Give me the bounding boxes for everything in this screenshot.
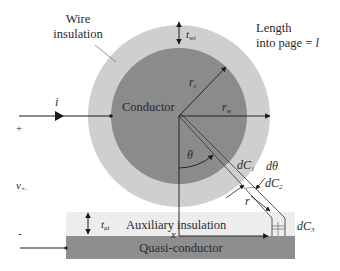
conductor-label: Conductor xyxy=(122,100,176,114)
tube-boundary-dc1-dc2 xyxy=(246,187,258,188)
wire-insulation-label-2: insulation xyxy=(53,27,103,41)
d-theta-arrow xyxy=(256,178,265,189)
minus-terminal-label: - xyxy=(18,227,22,239)
x-label: x xyxy=(170,228,176,240)
r-arrow-end xyxy=(251,196,270,211)
lead-junction-dot xyxy=(109,114,113,118)
bottom-junction-dot xyxy=(64,246,67,249)
length-label: Length xyxy=(256,21,292,35)
d-theta-label: dθ xyxy=(266,159,278,173)
wire-capacitance-diagram: Wire insulation Length into page = l twi… xyxy=(0,0,340,271)
quasi-conductor-label: Quasi-conductor xyxy=(139,241,223,255)
wire-insulation-pointer xyxy=(95,45,116,62)
length-label-2: into page = l xyxy=(256,36,319,50)
theta-label: θ xyxy=(187,148,193,162)
plus-terminal-label: + xyxy=(16,122,22,134)
current-arrow-icon xyxy=(55,111,64,121)
dC2-label: dC2 xyxy=(265,176,283,191)
current-label: i xyxy=(55,95,58,109)
auxiliary-insulation-label: Auxiliary insulation xyxy=(126,218,227,232)
dC3-label: dC3 xyxy=(297,219,315,234)
r-label: r xyxy=(245,194,250,208)
wire-insulation-label: Wire xyxy=(66,12,91,26)
voltage-label: v+- xyxy=(16,179,27,192)
